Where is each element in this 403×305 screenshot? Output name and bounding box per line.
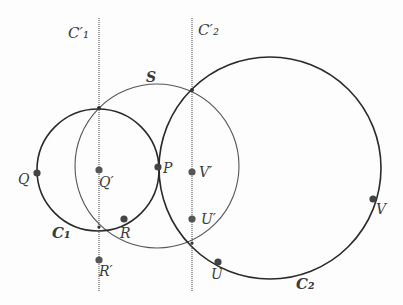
point-q-prime (95, 166, 102, 173)
intersection-bottom-c2 (190, 241, 193, 244)
label-c2-prime: C′₂ (198, 21, 219, 39)
inversion-diagram: C′₁ C′₂ S C₁ C₂ Q Q′ P V′ R U′ R′ U V (0, 0, 403, 305)
label-c1: C₁ (52, 224, 71, 242)
point-u (214, 258, 221, 265)
label-u: U (211, 266, 224, 282)
label-c1-prime: C′₁ (68, 24, 89, 42)
label-u-prime: U′ (201, 211, 217, 227)
label-r: R (119, 225, 131, 241)
point-v-prime (188, 168, 195, 175)
label-v: V (376, 201, 388, 217)
label-p: P (162, 160, 173, 176)
label-r-prime: R′ (98, 263, 114, 279)
point-r (120, 215, 127, 222)
label-q-prime: Q′ (99, 174, 114, 190)
label-c2: C₂ (296, 275, 315, 293)
intersection-bottom-c1 (97, 225, 100, 228)
point-p (154, 163, 161, 170)
intersection-top-c1 (97, 106, 101, 110)
diagram-canvas: C′₁ C′₂ S C₁ C₂ Q Q′ P V′ R U′ R′ U V (0, 0, 403, 305)
label-q: Q (18, 171, 30, 187)
point-q (33, 169, 40, 176)
intersection-top-c2 (190, 88, 194, 92)
label-v-prime: V′ (199, 164, 213, 180)
point-u-prime (188, 215, 195, 222)
label-s: S (146, 69, 156, 85)
